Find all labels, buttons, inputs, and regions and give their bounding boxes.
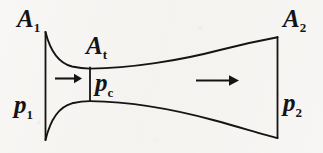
throat-area-subscript: t xyxy=(103,47,107,62)
exit-area-label: A2 xyxy=(283,6,306,31)
throat-pressure-symbol: p xyxy=(95,69,107,96)
exit-pressure-symbol: p xyxy=(283,89,295,116)
inlet-pressure-subscript: 1 xyxy=(27,107,34,122)
inlet-pressure-label: p1 xyxy=(14,92,33,117)
inlet-flow-arrow xyxy=(55,74,82,83)
exit-area-subscript: 2 xyxy=(300,20,307,35)
upper-nozzle-wall xyxy=(46,32,278,69)
lower-nozzle-wall xyxy=(46,101,278,140)
inlet-area-subscript: 1 xyxy=(34,20,41,35)
inlet-area-symbol: A xyxy=(17,5,33,32)
exit-flow-arrow xyxy=(196,75,239,86)
nozzle-cross-section-drawing xyxy=(0,0,323,153)
nozzle-figure: A1 At A2 p1 pc p2 xyxy=(0,0,323,153)
throat-area-symbol: A xyxy=(86,32,102,59)
inlet-pressure-symbol: p xyxy=(14,91,26,118)
throat-pressure-subscript: c xyxy=(108,85,114,100)
exit-pressure-label: p2 xyxy=(283,90,302,115)
throat-pressure-label: pc xyxy=(95,70,113,95)
exit-area-symbol: A xyxy=(283,5,299,32)
inlet-area-label: A1 xyxy=(17,6,40,31)
throat-area-label: At xyxy=(86,33,107,58)
exit-pressure-subscript: 2 xyxy=(296,105,303,120)
